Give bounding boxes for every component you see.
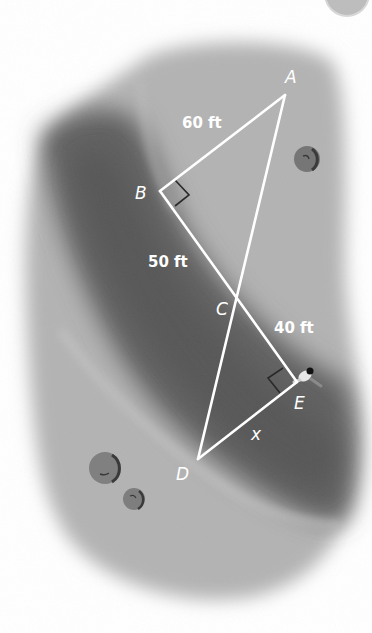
bush-icon: [123, 488, 145, 510]
measurement-BC: 50 ft: [148, 253, 188, 271]
vertex-label-E: E: [294, 393, 305, 413]
measurement-AB: 60 ft: [182, 114, 222, 132]
vertex-label-D: D: [176, 464, 189, 484]
bush-icon: [89, 452, 121, 484]
measurement-DE: x: [250, 424, 262, 444]
measurement-CE: 40 ft: [274, 319, 314, 337]
bush-icon: [294, 146, 320, 172]
vertex-label-A: A: [284, 67, 297, 87]
vertex-label-C: C: [216, 299, 228, 319]
terrain-background: [0, 0, 372, 633]
vertex-label-B: B: [135, 183, 147, 203]
diagram-canvas: A B C D E 60 ft 50 ft 40 ft x: [0, 0, 372, 633]
